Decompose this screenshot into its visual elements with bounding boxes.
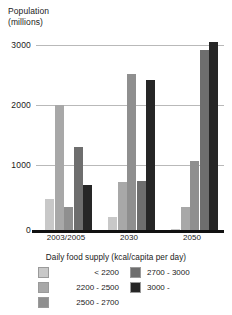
legend-item-label: < 2200 [53,268,121,277]
y-tick-label-3000: 3000 [11,41,31,50]
bar [74,147,83,230]
bar [181,207,190,230]
legend-item[interactable]: 2700 - 3000 [130,267,190,278]
legend-swatch-icon [38,267,49,278]
legend-item-label: 2500 - 2700 [53,298,121,307]
legend-swatch-icon [38,297,49,308]
bar [200,50,209,230]
legend-swatch-icon [130,267,141,278]
bar [45,199,54,230]
bar-group [108,45,156,230]
bar [171,229,180,230]
bar [64,207,73,230]
y-tick-label-0: 0 [26,226,31,235]
chart-figure: Population(millions) 3000 2000 1000 0 20… [0,0,232,315]
x-tick-label-3: 2050 [183,233,201,242]
bar [108,217,117,230]
legend-title: Daily food supply (kcal/capita per day) [0,253,232,263]
legend-item[interactable]: 2200 - 2500 [38,282,121,293]
y-axis-title: Population(millions) [8,6,49,27]
legend-item[interactable]: 2500 - 2700 [38,297,121,308]
x-tick-label-1: 2003/2005 [47,233,86,242]
legend-item-label: 3000 - [145,283,170,292]
legend: Daily food supply (kcal/capita per day) … [0,253,232,313]
legend-item[interactable]: 3000 - [130,282,170,293]
x-tick-label-2: 2030 [120,233,138,242]
plot-area: 3000 2000 1000 0 2003/2005 2030 2050 [36,45,224,230]
y-axis-title-line1: Population [8,6,49,16]
bar [146,80,155,230]
legend-item-label: 2700 - 3000 [145,268,190,277]
legend-entries: < 22002200 - 25002500 - 27002700 - 30003… [0,267,232,313]
bar [127,74,136,230]
y-tick-label-1000: 1000 [11,161,31,170]
legend-swatch-icon [130,282,141,293]
bar [137,181,146,230]
legend-swatch-icon [38,282,49,293]
y-tick-label-2000: 2000 [11,101,31,110]
bar [209,42,218,230]
bar [118,182,127,230]
legend-item[interactable]: < 2200 [38,267,121,278]
bar [55,105,64,230]
bar-group [45,45,93,230]
bar [83,185,92,230]
bar [190,161,199,230]
legend-item-label: 2200 - 2500 [53,283,121,292]
y-axis-title-line2: (millions) [8,17,43,27]
bar-group [171,45,219,230]
